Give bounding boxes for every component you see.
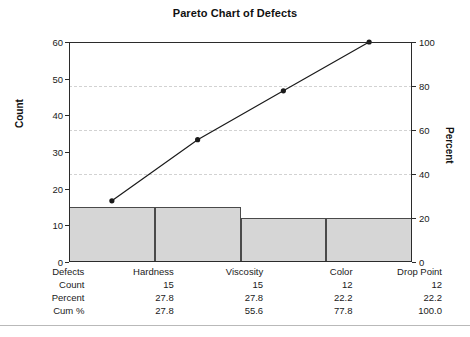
table-row-label: Count [0, 278, 84, 291]
y-tick-label-left: 20 [52, 183, 63, 194]
y-tick-label-left: 60 [52, 37, 63, 48]
y-axis-title-count: Count [14, 99, 25, 128]
y-tick-label-right: 20 [419, 213, 430, 224]
y-tick-label-left: 30 [52, 147, 63, 158]
pareto-chart-page: Pareto Chart of Defects Count Percent 01… [0, 0, 470, 337]
y-tick-label-right: 80 [419, 81, 430, 92]
y-tick-left [65, 225, 69, 226]
y-tick-left [65, 79, 69, 80]
table-cell: 77.8 [263, 304, 352, 317]
plot-frame [69, 42, 412, 262]
y-tick-left [65, 115, 69, 116]
table-cell: Drop Point [353, 265, 442, 278]
table-cell: 15 [84, 278, 173, 291]
bottom-divider [0, 325, 470, 326]
y-axis-title-percent: Percent [444, 127, 455, 164]
table-row-label: Percent [0, 291, 84, 304]
y-tick-right [412, 86, 416, 87]
table-cell: 100.0 [353, 304, 442, 317]
table-cell: 27.8 [84, 304, 173, 317]
table-cell: 27.8 [84, 291, 173, 304]
table-row-label: Cum % [0, 304, 84, 317]
y-tick-right [412, 174, 416, 175]
table-cell: 12 [263, 278, 352, 291]
y-tick-left [65, 42, 69, 43]
page-title: Pareto Chart of Defects [0, 7, 470, 19]
y-tick-right [412, 130, 416, 131]
y-tick-right [412, 262, 416, 263]
table-cell: 15 [174, 278, 263, 291]
table-row: DefectsHardnessViscosityColorDrop Point [0, 265, 442, 278]
table-row: Count15151212 [0, 278, 442, 291]
y-tick-left [65, 262, 69, 263]
table-row: Cum %27.855.677.8100.0 [0, 304, 442, 317]
table-cell: 27.8 [174, 291, 263, 304]
y-tick-left [65, 152, 69, 153]
table-cell: 22.2 [263, 291, 352, 304]
table-row: Percent27.827.822.222.2 [0, 291, 442, 304]
y-tick-right [412, 218, 416, 219]
y-tick-label-left: 50 [52, 73, 63, 84]
y-tick-label-right: 60 [419, 125, 430, 136]
table-cell: Color [263, 265, 352, 278]
table-cell: 55.6 [174, 304, 263, 317]
y-tick-label-right: 40 [419, 169, 430, 180]
y-tick-label-right: 100 [419, 37, 435, 48]
plot-area: 0102030405060 020406080100 [69, 42, 412, 262]
data-table: DefectsHardnessViscosityColorDrop PointC… [0, 265, 442, 317]
y-tick-label-left: 40 [52, 110, 63, 121]
table-cell: Viscosity [174, 265, 263, 278]
table-cell: Hardness [84, 265, 173, 278]
table-row-label: Defects [0, 265, 84, 278]
table-cell: 22.2 [353, 291, 442, 304]
table-cell: 12 [353, 278, 442, 291]
y-tick-label-left: 10 [52, 220, 63, 231]
y-tick-right [412, 42, 416, 43]
y-tick-left [65, 189, 69, 190]
